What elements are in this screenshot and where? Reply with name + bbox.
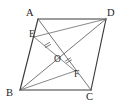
point-label-B: B [6, 87, 13, 98]
geometry-figure-container: A D B C E O F [0, 0, 124, 104]
point-label-C: C [86, 91, 93, 102]
segment-BF [20, 71, 75, 90]
geometry-diagram: A D B C E O F [0, 0, 124, 104]
point-label-F: F [74, 69, 79, 79]
point-label-E: E [29, 29, 35, 39]
point-label-A: A [26, 7, 34, 18]
point-label-O: O [54, 54, 61, 64]
point-label-D: D [107, 7, 115, 18]
